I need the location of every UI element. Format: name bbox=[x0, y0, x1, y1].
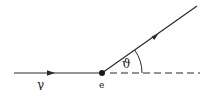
vertex-dot bbox=[99, 70, 105, 76]
angle-arc bbox=[135, 50, 142, 73]
scattering-diagram: γ e ϑ bbox=[0, 0, 215, 90]
incoming-arrow-icon bbox=[47, 70, 55, 76]
outgoing-arrow-icon bbox=[152, 34, 159, 40]
photon-label: γ bbox=[37, 78, 44, 90]
outgoing-line bbox=[102, 6, 197, 73]
angle-label: ϑ bbox=[122, 57, 131, 71]
electron-label: e bbox=[99, 80, 104, 90]
incoming-line bbox=[14, 70, 102, 76]
